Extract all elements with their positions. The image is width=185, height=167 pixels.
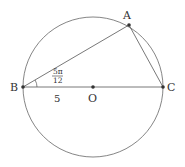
geometry-diagram: A B C O 5π 12 5 bbox=[0, 0, 185, 167]
segment-BA bbox=[23, 25, 129, 87]
angle-denominator: 12 bbox=[53, 76, 63, 85]
point-B bbox=[21, 85, 25, 89]
label-A: A bbox=[122, 9, 132, 22]
angle-numerator: 5π bbox=[53, 67, 63, 76]
label-O: O bbox=[88, 92, 97, 105]
point-A bbox=[127, 23, 131, 27]
point-C bbox=[161, 85, 165, 89]
angle-arc-B bbox=[35, 80, 37, 87]
length-label-BO: 5 bbox=[54, 93, 60, 104]
segment-AC bbox=[129, 25, 163, 87]
label-C: C bbox=[167, 81, 175, 94]
label-B: B bbox=[10, 81, 18, 94]
point-O bbox=[91, 85, 95, 89]
